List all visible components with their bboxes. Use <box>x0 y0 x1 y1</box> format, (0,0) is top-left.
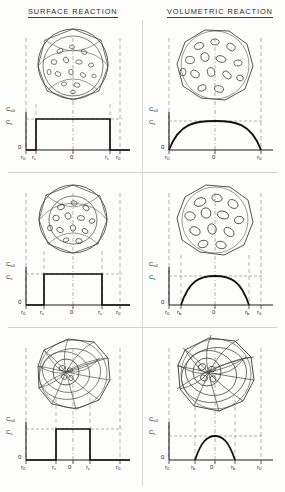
ticks-volumetric-3 <box>169 460 261 464</box>
y-axis-label-cs-surface-1: Cs <box>6 119 13 126</box>
y-axis-label-cs0-volumetric-1: Cs0 <box>149 106 158 113</box>
column-divider <box>142 20 143 486</box>
tick-label-volumetric-3-0: r0 <box>165 464 169 471</box>
y-origin-label-volumetric-2: 0 <box>161 299 164 305</box>
particle-surface-1-pores <box>47 45 97 94</box>
axes-surface-3 <box>26 422 130 460</box>
y-axis-label-cs0-volumetric-3: Cs0 <box>149 416 158 423</box>
tick-label-volumetric-3-3: rb <box>231 464 235 471</box>
cell-volumetric-row-2: Cs0 Cs 0 r0 rb 0 rb r0 <box>145 175 283 325</box>
tick-label-surface-3-0: r0 <box>21 464 25 471</box>
y-axis-label-cs-volumetric-3: Cs <box>149 429 156 436</box>
row-divider-1 <box>8 172 277 173</box>
tick-label-volumetric-1-1: 0 <box>212 154 215 160</box>
panel-volumetric-row-2 <box>145 175 283 325</box>
tick-label-volumetric-3-1: rb <box>191 464 195 471</box>
axes-volumetric-1 <box>169 112 273 150</box>
cell-surface-row-3: Cs0 Cs 0 r0 rc 0 rc r0 <box>4 330 142 480</box>
tick-label-surface-1-0: r0 <box>21 154 25 161</box>
tick-label-surface-3-4: r0 <box>116 464 120 471</box>
panel-surface-row-3 <box>4 330 142 480</box>
row-divider-2 <box>8 327 277 328</box>
cell-surface-row-1: Cs0 Cs 0 r0 rc 0 rc r0 <box>4 20 142 170</box>
cell-volumetric-row-1: Cs0 Cs 0 r0 0 r0 <box>145 20 283 170</box>
tick-label-volumetric-2-3: rb <box>245 309 249 316</box>
y-origin-label-surface-3: 0 <box>18 454 21 460</box>
tick-label-surface-2-4: r0 <box>116 309 120 316</box>
y-axis-label-cs-volumetric-2: Cs <box>149 274 156 281</box>
axes-volumetric-2 <box>169 267 273 305</box>
particle-volumetric-1-pores <box>180 38 244 93</box>
y-origin-label-surface-1: 0 <box>18 144 21 150</box>
cell-surface-row-2: Cs0 Cs 0 r0 rc 0 rc r0 <box>4 175 142 325</box>
axes-volumetric-3 <box>169 422 273 460</box>
tick-label-volumetric-1-0: r0 <box>165 154 169 161</box>
tick-label-volumetric-1-2: r0 <box>257 154 261 161</box>
axes-surface-1 <box>26 112 130 150</box>
tick-label-volumetric-2-4: r0 <box>257 309 261 316</box>
column-title-volumetric-reaction: VOLUMETRIC REACTION <box>167 7 273 18</box>
tick-label-surface-3-1: rc <box>52 464 56 471</box>
y-axis-label-cs0-surface-3: Cs0 <box>6 416 15 423</box>
tick-label-volumetric-3-4: r0 <box>257 464 261 471</box>
tick-label-surface-2-0: r0 <box>21 309 25 316</box>
particle-volumetric-2-pores <box>184 193 244 249</box>
panel-volumetric-row-1 <box>145 20 283 170</box>
tick-label-volumetric-2-1: rb <box>177 309 181 316</box>
tick-label-volumetric-2-0: r0 <box>165 309 169 316</box>
tick-label-surface-2-2: 0 <box>70 309 73 315</box>
tick-label-surface-1-1: rc <box>32 154 36 161</box>
tick-label-surface-1-4: r0 <box>116 154 120 161</box>
panel-surface-row-1 <box>4 20 142 170</box>
profile-curve-surface-row-1 <box>26 119 130 150</box>
tick-label-surface-2-3: rc <box>98 309 102 316</box>
panel-surface-row-2 <box>4 175 142 325</box>
y-origin-label-surface-2: 0 <box>18 299 21 305</box>
figure-root: SURFACE REACTION VOLUMETRIC REACTION <box>0 0 285 492</box>
tick-label-surface-3-2: 0 <box>68 464 71 470</box>
particle-volumetric-3-network <box>175 335 254 411</box>
column-title-surface-reaction: SURFACE REACTION <box>28 7 118 18</box>
profile-curve-surface-row-3 <box>26 429 130 460</box>
y-origin-label-volumetric-3: 0 <box>161 454 164 460</box>
tick-label-volumetric-3-2: 0 <box>210 464 213 470</box>
tick-label-surface-2-1: rc <box>40 309 44 316</box>
y-axis-label-cs-volumetric-1: Cs <box>149 119 156 126</box>
y-axis-label-cs-surface-2: Cs <box>6 274 13 281</box>
y-axis-label-cs-surface-3: Cs <box>6 429 13 436</box>
y-axis-label-cs0-surface-2: Cs0 <box>6 261 15 268</box>
axes-surface-2 <box>26 267 130 305</box>
y-axis-label-cs0-volumetric-2: Cs0 <box>149 261 158 268</box>
tick-label-surface-1-2: 0 <box>70 154 73 160</box>
tick-label-volumetric-2-2: 0 <box>212 309 215 315</box>
tick-label-surface-3-3: rc <box>86 464 90 471</box>
y-axis-label-cs0-surface-1: Cs0 <box>6 106 15 113</box>
cell-volumetric-row-3: Cs0 Cs 0 r0 rb 0 rb r0 <box>145 330 283 480</box>
y-origin-label-volumetric-1: 0 <box>161 144 164 150</box>
tick-label-surface-1-3: rc <box>105 154 109 161</box>
profile-curve-surface-row-2 <box>26 274 130 305</box>
panel-volumetric-row-3 <box>145 330 283 480</box>
